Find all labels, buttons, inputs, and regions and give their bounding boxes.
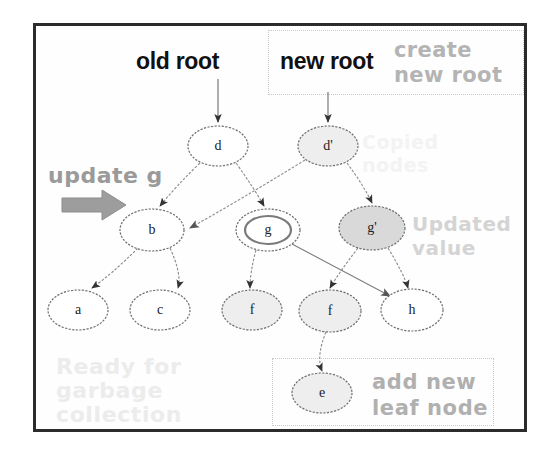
annotation-copied-nodes: Copied nodes — [362, 131, 439, 177]
node-label-g: g — [265, 222, 272, 238]
node-label-c: c — [157, 302, 163, 318]
node-label-e: e — [319, 385, 325, 401]
node-label-f2: f — [328, 303, 333, 319]
node-label-d: d — [215, 138, 222, 154]
node-label-a: a — [75, 302, 81, 318]
annotation-ready-for-gc: Ready for garbage collection — [56, 355, 182, 428]
annotation-update-g: update g — [48, 163, 163, 189]
node-label-dp: d' — [323, 138, 333, 154]
figure-canvas: dd'bgg'acffhe old root new root create n… — [0, 0, 554, 450]
page-title-old-root: old root — [136, 48, 219, 75]
node-label-gp: g' — [367, 220, 377, 236]
annotation-updated-value: Updated value — [412, 213, 511, 260]
node-label-b: b — [149, 222, 156, 238]
annotation-create-new-root: create new root — [394, 38, 502, 88]
annotation-add-new-leaf-node: add new leaf node — [372, 369, 488, 422]
node-label-h: h — [409, 302, 416, 318]
node-label-f: f — [250, 302, 255, 318]
page-title-new-root: new root — [280, 48, 373, 75]
